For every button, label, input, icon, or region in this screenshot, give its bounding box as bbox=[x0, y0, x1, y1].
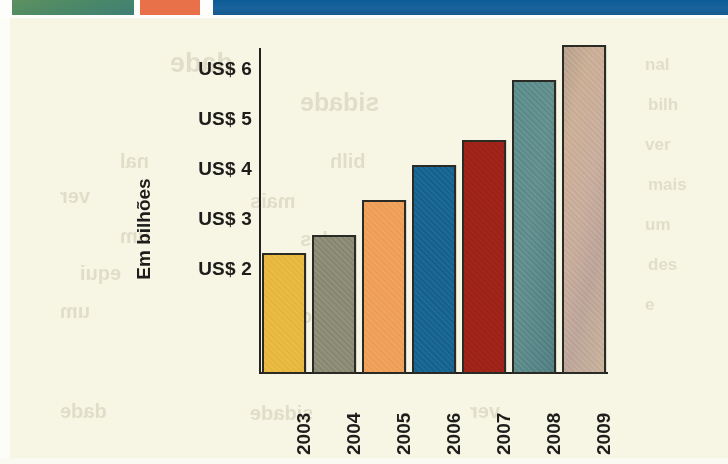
bar-2008 bbox=[512, 80, 556, 374]
bar-paper-texture bbox=[564, 47, 604, 372]
y-tick-label-3: US$ 3 bbox=[166, 208, 252, 230]
bar-paper-texture bbox=[464, 142, 504, 372]
bar-chart: Em bilhões US$ 6US$ 5US$ 4US$ 3US$ 2 200… bbox=[0, 0, 728, 464]
bar-2004 bbox=[312, 235, 356, 374]
y-axis-tick-labels: US$ 6US$ 5US$ 4US$ 3US$ 2 bbox=[160, 0, 252, 464]
bar-2006 bbox=[412, 165, 456, 374]
bar-2005 bbox=[362, 200, 406, 374]
x-tick-label-2009: 2009 bbox=[593, 413, 615, 455]
bar-paper-texture bbox=[414, 167, 454, 372]
x-tick-label-2005: 2005 bbox=[393, 413, 415, 455]
y-tick-label-5: US$ 5 bbox=[166, 108, 252, 130]
x-tick-label-2004: 2004 bbox=[343, 413, 365, 455]
y-tick-label-4: US$ 4 bbox=[166, 158, 252, 180]
y-tick-label-6: US$ 6 bbox=[166, 58, 252, 80]
y-axis-title: Em bilhões bbox=[133, 139, 155, 319]
y-tick-label-2: US$ 2 bbox=[166, 258, 252, 280]
x-tick-label-2006: 2006 bbox=[443, 413, 465, 455]
bar-series bbox=[259, 0, 619, 374]
bar-paper-texture bbox=[364, 202, 404, 372]
x-tick-label-2008: 2008 bbox=[543, 413, 565, 455]
bar-2007 bbox=[462, 140, 506, 374]
bar-paper-texture bbox=[314, 237, 354, 372]
bar-2009 bbox=[562, 45, 606, 374]
bar-paper-texture bbox=[514, 82, 554, 372]
chart-page: dadesidadenalbilhvermaisumdesequieumbron… bbox=[0, 0, 728, 464]
bar-2003 bbox=[262, 253, 306, 375]
x-tick-label-2003: 2003 bbox=[293, 413, 315, 455]
bar-paper-texture bbox=[264, 255, 304, 373]
x-tick-label-2007: 2007 bbox=[493, 413, 515, 455]
